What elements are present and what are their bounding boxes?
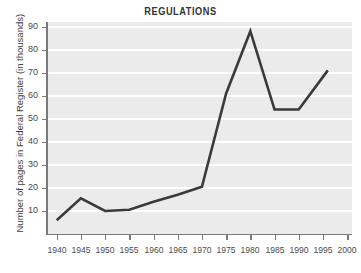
gridline [47, 187, 352, 189]
y-tick-label: 70 [18, 68, 38, 77]
x-tick-label: 2000 [331, 245, 361, 255]
x-tick-mark [275, 235, 276, 240]
y-tick-label: 90 [18, 22, 38, 31]
y-tick-label: 50 [18, 114, 38, 123]
plot-area [47, 22, 352, 234]
gridline [47, 95, 352, 97]
x-tick-mark [226, 235, 227, 240]
y-axis-label: Number of pages in Federal Register (in … [14, 23, 25, 233]
chart-title: REGULATIONS [14, 6, 346, 17]
x-tick-mark [105, 235, 106, 240]
x-tick-mark [81, 235, 82, 240]
gridline [47, 26, 352, 28]
y-tick-label: 80 [18, 45, 38, 54]
gridline [47, 49, 352, 51]
y-tick-mark [42, 96, 46, 97]
y-tick-label: 20 [18, 183, 38, 192]
gridline [47, 141, 352, 143]
y-tick-mark [42, 142, 46, 143]
y-tick-label: 10 [18, 206, 38, 215]
gridline [47, 118, 352, 120]
x-tick-mark [202, 235, 203, 240]
x-tick-mark [250, 235, 251, 240]
gridline [47, 164, 352, 166]
y-tick-label: 30 [18, 160, 38, 169]
chart-figure: REGULATIONS Number of pages in Federal R… [0, 0, 361, 273]
x-axis-line [46, 234, 352, 236]
y-tick-mark [42, 188, 46, 189]
y-tick-label: 40 [18, 137, 38, 146]
x-tick-mark [347, 235, 348, 240]
x-tick-mark [323, 235, 324, 240]
x-tick-mark [57, 235, 58, 240]
x-tick-mark [129, 235, 130, 240]
x-tick-mark [299, 235, 300, 240]
y-tick-mark [42, 27, 46, 28]
y-tick-mark [42, 165, 46, 166]
y-tick-mark [42, 73, 46, 74]
x-tick-mark [178, 235, 179, 240]
y-tick-mark [42, 211, 46, 212]
x-tick-mark [154, 235, 155, 240]
y-axis-line [46, 22, 48, 235]
gridline [47, 72, 352, 74]
y-tick-label: 60 [18, 91, 38, 100]
y-tick-mark [42, 119, 46, 120]
y-tick-mark [42, 50, 46, 51]
gridline [47, 210, 352, 212]
